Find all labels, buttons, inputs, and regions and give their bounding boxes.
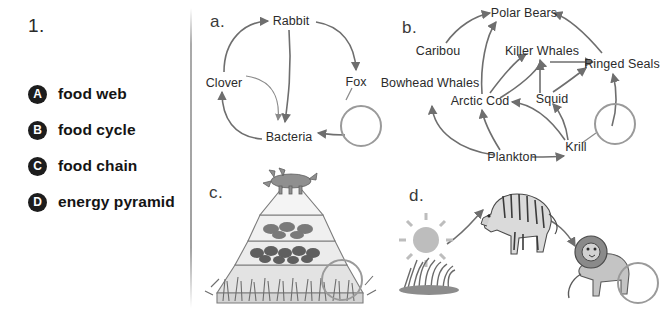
arrow-cod-polarbears [482,22,496,94]
arrow-plankton-cod [482,110,500,150]
zebra-icon [481,194,557,254]
option-c-badge: C [28,157,47,176]
node-plankton: Plankton [487,150,536,164]
diagram-a[interactable]: a. Rabbit [200,0,390,165]
answer-circle-a[interactable] [340,105,382,147]
question-number: 1. [28,15,45,37]
wolf-icon [263,168,317,194]
answer-options-list: A food web B food cycle C food chain D e… [28,78,193,222]
worksheet-page: 1. A food web B food cycle C food chain … [0,0,664,318]
node-clover: Clover [206,76,243,90]
arrow-squid-seals [553,68,586,92]
arrow-clover-rabbit [224,21,268,72]
option-a-label: food web [58,85,127,103]
node-caribou: Caribou [416,44,460,58]
arrow-caribou-polarbears [446,13,490,43]
node-ringed-seals: Ringed Seals [584,57,660,71]
arrow-cod-killerwhales [490,54,526,93]
answer-circle-d[interactable] [617,262,659,304]
arrow-plankton-bowhead [432,106,494,155]
diagram-c[interactable]: c. [195,165,390,318]
node-bacteria: Bacteria [266,130,313,144]
node-rabbit: Rabbit [273,14,310,28]
panel-divider [190,8,192,308]
node-polar-bears: Polar Bears [491,6,557,20]
option-a[interactable]: A food web [28,78,193,110]
sun-icon [399,213,453,267]
option-d[interactable]: D energy pyramid [28,186,193,218]
grass-icon [399,258,459,295]
diagram-b[interactable]: b. [390,0,664,170]
option-b-label: food cycle [58,121,136,139]
arrow-clover-bacteria [246,76,278,120]
node-arctic-cod: Arctic Cod [451,94,510,108]
pyramid-illustration [195,165,390,318]
option-c-label: food chain [58,157,137,175]
arrow-krill-cod [512,102,565,140]
option-d-badge: D [28,193,47,212]
option-c[interactable]: C food chain [28,150,193,182]
node-squid: Squid [536,92,568,106]
arrow-rabbit-fox [316,22,356,70]
arrow-cod-up [500,60,540,98]
diagram-d[interactable]: d. [385,170,664,318]
arrow-rabbit-bacteria [285,30,290,122]
option-b-badge: B [28,121,47,140]
option-d-label: energy pyramid [58,193,175,211]
option-a-badge: A [28,85,47,104]
answer-circle-c[interactable] [321,259,363,301]
arrow-bacteria-clover [222,92,262,139]
arrow-fox-circle [346,88,352,100]
node-killer-whales: Killer Whales [505,44,579,58]
node-bowhead-whales: Bowhead Whales [381,76,480,90]
option-b[interactable]: B food cycle [28,114,193,146]
node-fox: Fox [345,75,366,89]
arrow-plankton-krill [532,156,564,157]
node-krill: Krill [565,140,586,154]
answer-circle-b[interactable] [594,103,636,145]
